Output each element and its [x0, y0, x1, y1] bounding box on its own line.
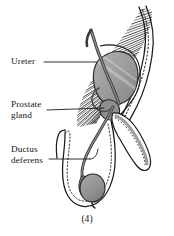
- label-prostate-gland-line2: gland: [11, 110, 32, 120]
- testis: [80, 174, 105, 202]
- label-ductus-deferens: Ductusdeferens: [11, 144, 43, 165]
- anatomical-figure: Ureter Prostategland Ductusdeferens (4): [0, 0, 174, 236]
- label-ductus-deferens-line1: Ductus: [11, 144, 38, 154]
- penis-outline: [112, 113, 151, 171]
- label-prostate-gland-line1: Prostate: [11, 99, 41, 109]
- figure-caption: (4): [0, 213, 174, 224]
- label-ductus-deferens-line2: deferens: [11, 155, 43, 165]
- label-prostate-gland: Prostategland: [11, 99, 41, 120]
- label-ureter: Ureter: [11, 56, 35, 67]
